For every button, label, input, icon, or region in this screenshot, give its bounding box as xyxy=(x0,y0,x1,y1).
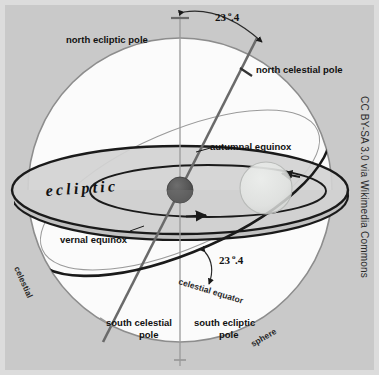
south-ecliptic-pole-label-line1: south ecliptic xyxy=(194,317,255,328)
vernal-equinox-label: vernal equinox xyxy=(60,234,128,245)
earth-sphere xyxy=(240,162,292,214)
top-angle-value: 23 xyxy=(215,11,227,23)
celestial-sphere-label-sphere: sphere xyxy=(249,326,278,349)
attribution: CC BY-SA 3.0 via Wikimedia Commons xyxy=(353,0,375,375)
top-obliquity-angle: 23 o .4 xyxy=(215,10,240,23)
diagram-canvas: ecliptic north ecliptic pole xyxy=(0,0,379,375)
orbit-arrow-left xyxy=(186,215,206,216)
celestial-sphere-label-celestial: celestial xyxy=(12,265,35,300)
south-celestial-pole-label-line2: pole xyxy=(139,329,159,340)
south-ecliptic-pole-label-line2: pole xyxy=(219,329,239,340)
bottom-angle-fraction: .4 xyxy=(235,254,244,266)
bottom-angle-value: 23 xyxy=(219,254,231,266)
north-ecliptic-pole-label: north ecliptic pole xyxy=(66,34,148,45)
attribution-text: CC BY-SA 3.0 via Wikimedia Commons xyxy=(359,96,370,278)
autumnal-equinox-label: autumnal equinox xyxy=(210,141,292,152)
celestial-sphere-diagram: ecliptic north ecliptic pole xyxy=(0,0,379,375)
south-celestial-pole-label-line1: south celestial xyxy=(106,317,172,328)
top-angle-fraction: .4 xyxy=(231,11,240,23)
north-celestial-pole-label: north celestial pole xyxy=(256,64,343,75)
